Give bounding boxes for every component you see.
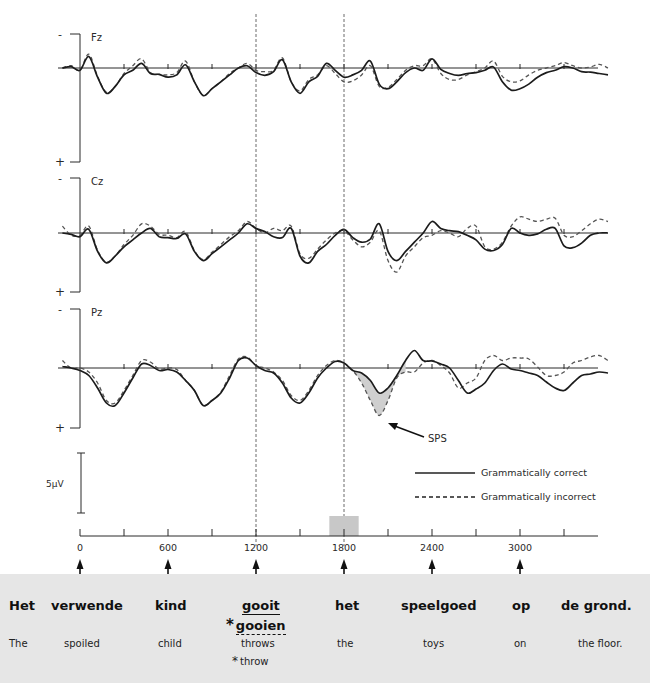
erp-chart: -+Fz-+Cz-+PzSPS 5µV06001200180024003000 … — [0, 0, 650, 574]
positive-polarity-label: + — [55, 155, 65, 169]
x-tick-label-1200: 1200 — [244, 542, 268, 553]
negative-polarity-label: - — [58, 28, 62, 41]
gloss-asterisk: * — [232, 654, 238, 668]
sps-arrow-head — [388, 423, 398, 430]
panel-cz: -+Cz — [55, 172, 608, 299]
x-tick-label-1800: 1800 — [332, 542, 356, 553]
word-op: op — [512, 598, 530, 613]
gloss-child: child — [158, 638, 182, 649]
legend-label-solid: Grammatically correct — [481, 467, 587, 478]
electrode-label-pz: Pz — [91, 307, 102, 318]
electrode-label-fz: Fz — [91, 32, 102, 43]
word-onset-arrowhead-3000 — [517, 559, 524, 569]
gloss-throw: *throw — [232, 654, 268, 668]
sentence-band — [0, 574, 650, 683]
line-grammatically-correct-pz — [62, 351, 608, 407]
positive-polarity-label: + — [55, 285, 65, 299]
negative-polarity-label: - — [58, 303, 62, 316]
x-tick-label-600: 600 — [159, 542, 177, 553]
x-tick-label-3000: 3000 — [508, 542, 532, 553]
gloss-spoiled: spoiled — [64, 638, 100, 649]
word-verwende: verwende — [51, 598, 123, 613]
scale-bar-label: 5µV — [46, 479, 64, 489]
x-tick-label-0: 0 — [77, 542, 83, 553]
word-het-2: het — [335, 598, 359, 613]
word-onset-arrowhead-600 — [165, 559, 172, 569]
word-onset-arrowhead-0 — [77, 559, 84, 569]
electrode-label-cz: Cz — [91, 176, 103, 187]
word-onset-arrowhead-1800 — [341, 559, 348, 569]
polarity-bracket — [70, 34, 80, 162]
word-gooien: *gooien — [226, 616, 286, 634]
word-onset-arrowhead-1200 — [253, 559, 260, 569]
line-grammatically-incorrect-pz — [62, 355, 608, 415]
gooien-dashed: gooien — [236, 618, 286, 635]
word-gooit: gooit — [242, 598, 280, 613]
sps-annotation: SPS — [388, 423, 447, 444]
gloss-throws: throws — [241, 638, 275, 649]
word-het-1: Het — [9, 598, 35, 613]
gooit-underlined: gooit — [242, 598, 280, 615]
gloss-the-floor: the floor. — [578, 638, 623, 649]
gloss-throw-text: throw — [240, 656, 268, 667]
word-speelgoed: speelgoed — [401, 598, 477, 613]
word-onset-arrowhead-2400 — [429, 559, 436, 569]
gloss-the-1: The — [9, 638, 28, 649]
word-de-grond: de grond. — [561, 598, 632, 613]
line-grammatically-incorrect-cz — [62, 217, 608, 273]
legend-label-dashed: Grammatically incorrect — [481, 491, 596, 502]
gloss-the-2: the — [337, 638, 353, 649]
x-tick-label-2400: 2400 — [420, 542, 444, 553]
sps-arrow-line — [392, 425, 424, 437]
panel-fz: -+Fz — [55, 28, 608, 169]
sps-label: SPS — [428, 433, 447, 444]
sps-shaded-area — [335, 361, 405, 416]
negative-polarity-label: - — [58, 172, 62, 185]
scale-bar — [77, 453, 85, 513]
panel-pz: -+PzSPS — [55, 303, 608, 444]
ungrammatical-asterisk: * — [226, 616, 234, 634]
line-grammatically-incorrect-fz — [62, 54, 608, 96]
positive-polarity-label: + — [55, 421, 65, 435]
word-kind: kind — [155, 598, 187, 613]
line-grammatically-correct-cz — [62, 221, 608, 263]
gloss-on: on — [514, 638, 526, 649]
gloss-toys: toys — [423, 638, 444, 649]
